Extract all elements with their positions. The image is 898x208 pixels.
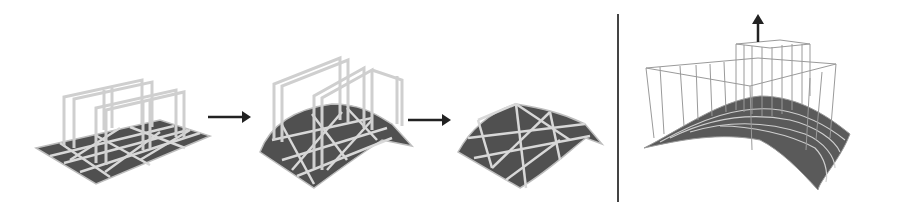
panel-deformed-mesh xyxy=(450,0,610,208)
right-arrow-icon xyxy=(406,113,452,127)
lifted-surface-illustration xyxy=(640,0,898,208)
panel-divider xyxy=(617,14,619,202)
panel-deformed-mesh-with-handles xyxy=(252,0,422,208)
arrow-2 xyxy=(406,113,452,127)
arrow-1 xyxy=(206,110,252,124)
up-arrow-icon xyxy=(752,14,764,42)
right-arrow-icon xyxy=(206,110,252,124)
deformed-mesh-handles-illustration xyxy=(252,0,422,208)
panel-flat-mesh-with-handles xyxy=(0,0,230,208)
flat-mesh-illustration xyxy=(0,0,230,208)
deformed-mesh-illustration xyxy=(450,0,610,208)
panel-lifted-surface-with-cage xyxy=(640,0,898,208)
